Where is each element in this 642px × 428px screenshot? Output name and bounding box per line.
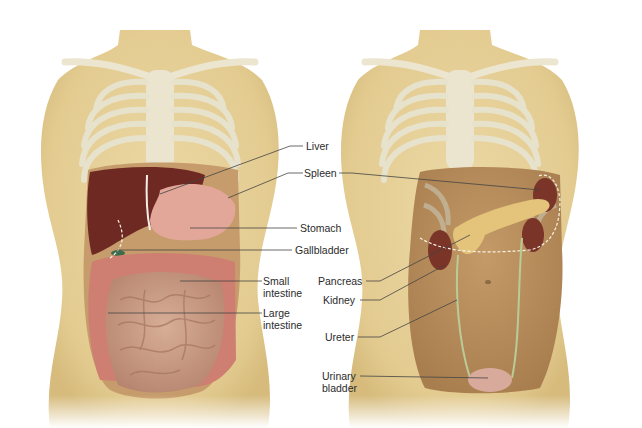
label-spleen: Spleen xyxy=(304,167,337,179)
left-torso xyxy=(40,30,280,428)
label-stomach: Stomach xyxy=(300,222,341,234)
label-gallbladder: Gallbladder xyxy=(295,244,349,256)
label-pancreas: Pancreas xyxy=(318,275,362,287)
label-large-intestine-line1: Large xyxy=(263,307,290,319)
label-large-intestine-line2: intestine xyxy=(263,319,302,331)
label-kidney: Kidney xyxy=(323,294,355,306)
anatomy-illustration xyxy=(0,0,642,428)
label-urinary-bladder-line1: Urinary xyxy=(322,370,356,382)
right-torso xyxy=(340,30,580,428)
label-small-intestine-line1: Small xyxy=(263,275,289,287)
label-liver: Liver xyxy=(306,140,329,152)
label-ureter: Ureter xyxy=(325,331,354,343)
label-small-intestine-line2: intestine xyxy=(263,287,302,299)
label-urinary-bladder-line2: bladder xyxy=(322,382,357,394)
